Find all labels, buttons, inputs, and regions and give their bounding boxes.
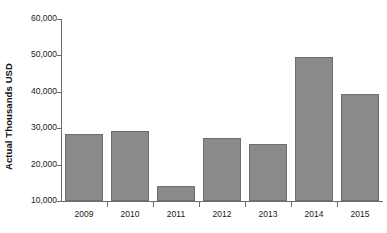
x-axis-line: [61, 201, 383, 202]
x-axis-tick-label: 2013: [245, 209, 291, 219]
bar: [203, 138, 241, 201]
y-axis-tick-mark: [57, 92, 62, 93]
plot-area: [61, 19, 383, 201]
x-axis-tick-label: 2012: [199, 209, 245, 219]
bar: [249, 144, 287, 201]
y-axis-tick-mark: [57, 19, 62, 20]
x-axis-tick-mark: [245, 202, 246, 207]
x-axis-tick-label: 2014: [291, 209, 337, 219]
y-axis-tick-mark: [57, 55, 62, 56]
x-axis-tick-label: 2015: [337, 209, 383, 219]
y-axis-title: Actual Thousands USD: [0, 0, 16, 233]
x-axis-tick-mark: [199, 202, 200, 207]
bar: [157, 186, 195, 201]
x-axis-tick-label: 2011: [153, 209, 199, 219]
bar-chart: Actual Thousands USD 10,00020,00030,0004…: [0, 0, 387, 233]
x-axis-tick-mark: [107, 202, 108, 207]
x-axis-tick-mark: [291, 202, 292, 207]
y-axis-tick-label: 10,000: [18, 196, 57, 205]
y-axis-tick-mark: [57, 165, 62, 166]
bar: [341, 94, 379, 201]
y-axis-tick-label: 60,000: [18, 14, 57, 23]
y-axis-tick-label: 50,000: [18, 50, 57, 59]
bar: [295, 57, 333, 201]
y-axis-tick-label-group: 10,00020,00030,00040,00050,00060,000: [18, 0, 57, 233]
y-axis-tick-label: 30,000: [18, 123, 57, 132]
x-axis-tick-mark: [337, 202, 338, 207]
bar: [65, 134, 103, 201]
x-axis-tick-label: 2010: [107, 209, 153, 219]
y-axis-tick-mark: [57, 201, 62, 202]
y-axis-tick-label: 20,000: [18, 160, 57, 169]
y-axis-tick-mark: [57, 128, 62, 129]
x-axis-tick-label: 2009: [61, 209, 107, 219]
bar: [111, 131, 149, 201]
x-axis-tick-mark: [153, 202, 154, 207]
y-axis-tick-label: 40,000: [18, 87, 57, 96]
x-axis-tick-label-group: 2009201020112012201320142015: [61, 209, 383, 223]
